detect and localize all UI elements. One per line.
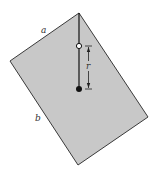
plate-diagram: r a b — [0, 0, 158, 171]
pivot-point-icon — [76, 43, 81, 48]
center-of-mass-icon — [76, 86, 82, 92]
dimension-label-r: r — [86, 61, 91, 71]
side-label-a: a — [41, 25, 46, 35]
side-label-b: b — [35, 113, 41, 123]
